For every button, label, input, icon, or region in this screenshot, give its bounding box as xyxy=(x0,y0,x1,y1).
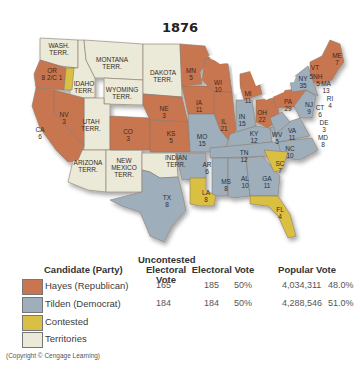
svg-text:3: 3 xyxy=(126,135,130,142)
svg-text:KS: KS xyxy=(167,130,176,137)
svg-text:TERR.: TERR. xyxy=(153,76,173,83)
svg-text:RI: RI xyxy=(327,95,334,102)
svg-text:3: 3 xyxy=(62,118,66,125)
svg-text:WYOMING: WYOMING xyxy=(106,86,139,93)
svg-text:SC: SC xyxy=(275,160,284,167)
svg-text:15: 15 xyxy=(198,140,206,147)
svg-text:CO: CO xyxy=(123,128,133,135)
svg-text:4: 4 xyxy=(328,102,332,109)
svg-text:CT: CT xyxy=(316,104,325,111)
svg-text:8: 8 xyxy=(321,141,325,148)
svg-text:OH: OH xyxy=(257,109,267,116)
svg-text:9: 9 xyxy=(307,108,311,115)
svg-text:ARIZONA: ARIZONA xyxy=(74,159,104,166)
svg-text:LA: LA xyxy=(202,189,211,196)
svg-text:5: 5 xyxy=(275,138,279,145)
svg-text:IN: IN xyxy=(239,113,246,120)
svg-text:NV: NV xyxy=(59,111,69,118)
svg-text:AL: AL xyxy=(241,175,249,182)
svg-text:NC: NC xyxy=(285,145,295,152)
svg-text:21: 21 xyxy=(220,125,228,132)
svg-text:WV: WV xyxy=(272,131,283,138)
svg-text:TERR.: TERR. xyxy=(112,93,132,100)
svg-text:OR: OR xyxy=(47,67,57,74)
svg-text:TERR.: TERR. xyxy=(114,171,134,178)
svg-text:TERR.: TERR. xyxy=(166,161,186,168)
us-election-map: WASH.TERR. OR8 2/C 1 CA6 NV3 IDAHOTERR. … xyxy=(0,0,360,250)
svg-text:IA: IA xyxy=(196,99,203,106)
header-electoral: Electoral Vote xyxy=(178,265,268,275)
svg-text:7: 7 xyxy=(335,59,339,66)
svg-text:NE: NE xyxy=(159,105,169,112)
svg-text:12: 12 xyxy=(250,137,258,144)
svg-text:MONTANA: MONTANA xyxy=(96,56,129,63)
svg-text:PA: PA xyxy=(284,98,293,105)
svg-text:29: 29 xyxy=(284,105,292,112)
svg-text:12: 12 xyxy=(240,156,248,163)
svg-text:MEXICO: MEXICO xyxy=(111,164,137,171)
state-or-contested xyxy=(64,68,74,90)
svg-text:TX: TX xyxy=(163,194,172,201)
contested-swatch xyxy=(22,315,43,331)
state-fl xyxy=(250,196,296,238)
svg-text:5: 5 xyxy=(169,137,173,144)
svg-text:3: 3 xyxy=(322,126,326,133)
popular-value: 4,288,546 xyxy=(282,298,322,308)
svg-text:13: 13 xyxy=(322,87,330,94)
popular-pct: 48.0% xyxy=(328,280,354,290)
svg-text:3: 3 xyxy=(162,112,166,119)
svg-text:FL: FL xyxy=(276,206,284,213)
svg-text:CA: CA xyxy=(35,126,45,133)
svg-text:MS: MS xyxy=(221,178,231,185)
svg-text:6: 6 xyxy=(205,168,209,175)
svg-text:MN: MN xyxy=(186,67,196,74)
svg-text:35: 35 xyxy=(299,82,307,89)
uncontested-value: 165 xyxy=(156,280,171,290)
legend-row-tilden: Tilden (Democrat) 184 184 50% 4,288,546 … xyxy=(20,297,350,317)
svg-text:VA: VA xyxy=(288,127,297,134)
svg-text:6: 6 xyxy=(38,133,42,140)
popular-pct: 51.0% xyxy=(328,298,354,308)
svg-text:KY: KY xyxy=(250,130,259,137)
electoral-pct: 50% xyxy=(234,280,252,290)
svg-text:MD: MD xyxy=(318,134,328,141)
republican-swatch xyxy=(22,279,43,295)
svg-text:11: 11 xyxy=(289,134,296,141)
electoral-value: 185 xyxy=(204,280,219,290)
svg-text:10: 10 xyxy=(241,182,249,189)
svg-text:4: 4 xyxy=(278,213,282,220)
legend-row-territories: Territories xyxy=(20,332,350,352)
svg-text:8: 8 xyxy=(224,185,228,192)
svg-text:8 2/C 1: 8 2/C 1 xyxy=(42,74,63,81)
svg-text:8: 8 xyxy=(204,196,208,203)
svg-text:UTAH: UTAH xyxy=(82,118,100,125)
row-label: Contested xyxy=(45,316,88,327)
header-popular: Popular Vote xyxy=(262,265,352,275)
row-label: Hayes (Republican) xyxy=(45,280,128,291)
svg-text:15: 15 xyxy=(238,120,246,127)
svg-text:TN: TN xyxy=(240,149,249,156)
svg-text:TERR.: TERR. xyxy=(49,49,69,56)
lake-michigan xyxy=(232,64,240,94)
svg-text:ME: ME xyxy=(332,52,342,59)
electoral-value: 184 xyxy=(204,298,219,308)
svg-text:TERR.: TERR. xyxy=(74,87,94,94)
popular-value: 4,034,311 xyxy=(282,280,321,290)
uncontested-value: 184 xyxy=(156,298,171,308)
svg-text:GA: GA xyxy=(262,175,272,182)
svg-text:11: 11 xyxy=(245,97,252,104)
svg-text:6: 6 xyxy=(318,111,322,118)
territories-swatch xyxy=(22,332,43,348)
democrat-swatch xyxy=(22,297,43,313)
svg-text:AR: AR xyxy=(202,161,211,168)
svg-text:5NH: 5NH xyxy=(309,73,322,80)
svg-text:IL: IL xyxy=(221,118,227,125)
svg-text:NJ: NJ xyxy=(305,101,313,108)
svg-text:8: 8 xyxy=(165,201,169,208)
svg-text:11: 11 xyxy=(196,106,203,113)
svg-text:TERR.: TERR. xyxy=(81,125,101,132)
svg-text:INDIAN: INDIAN xyxy=(165,154,187,161)
row-label: Territories xyxy=(45,333,87,344)
svg-text:NEW: NEW xyxy=(116,157,132,164)
svg-text:WASH.: WASH. xyxy=(48,42,69,49)
